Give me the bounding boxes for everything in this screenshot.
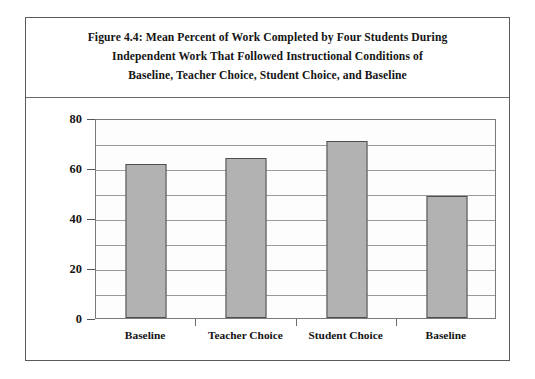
bar[interactable] <box>126 164 167 318</box>
bar-series <box>96 120 495 318</box>
x-tick-mark <box>296 319 297 326</box>
y-tick-label: 20 <box>70 262 82 277</box>
x-category-label: Baseline <box>426 329 467 341</box>
bar-slot <box>96 120 196 318</box>
chart-area: Percent of Work Completed 020406080 Base… <box>26 99 511 361</box>
bar-slot <box>397 120 496 318</box>
y-tick-mark <box>87 169 95 170</box>
bar[interactable] <box>426 196 467 318</box>
x-category-label: Baseline <box>125 329 166 341</box>
y-axis: Percent of Work Completed 020406080 <box>26 119 95 319</box>
x-tick-mark <box>195 319 196 326</box>
y-tick-mark <box>87 269 95 270</box>
x-category-label: Student Choice <box>308 329 382 341</box>
x-category-label: Teacher Choice <box>208 329 283 341</box>
bar-slot <box>196 120 296 318</box>
y-tick-mark <box>87 119 95 120</box>
bar[interactable] <box>326 141 367 318</box>
y-tick-label: 60 <box>70 162 82 177</box>
plot-area <box>95 119 496 319</box>
y-tick-label: 80 <box>70 112 82 127</box>
bar[interactable] <box>226 158 267 318</box>
bar-slot <box>297 120 397 318</box>
x-axis: BaselineTeacher ChoiceStudent ChoiceBase… <box>95 319 496 359</box>
x-tick-mark <box>396 319 397 326</box>
y-tick-mark <box>87 319 95 320</box>
figure-frame: Figure 4.4: Mean Percent of Work Complet… <box>25 17 510 361</box>
y-tick-label: 0 <box>76 312 82 327</box>
figure-title-block: Figure 4.4: Mean Percent of Work Complet… <box>26 18 509 98</box>
y-tick-mark <box>87 219 95 220</box>
y-tick-label: 40 <box>70 212 82 227</box>
page-title: Figure 4.4: Mean Percent of Work Complet… <box>62 29 474 85</box>
